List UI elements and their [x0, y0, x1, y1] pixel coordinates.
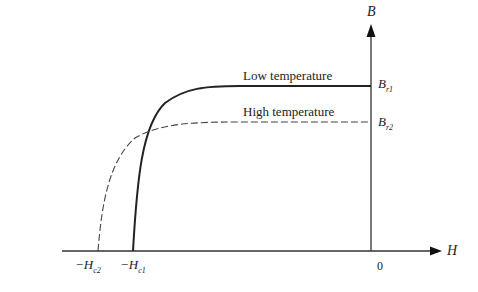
h-axis-arrow-icon — [430, 247, 442, 256]
h-axis-label: H — [447, 243, 457, 259]
origin-label: 0 — [377, 259, 383, 274]
br2-label: Br2 — [378, 114, 393, 132]
b-axis-arrow-icon — [367, 24, 376, 37]
neg-hc1-label: −Hc1 — [120, 257, 146, 275]
neg-hc2-label: −Hc2 — [75, 257, 101, 275]
b-axis-label: B — [367, 4, 376, 20]
br1-label: Br1 — [378, 76, 393, 94]
low-temperature-label: Low temperature — [243, 68, 332, 84]
high-temperature-label: High temperature — [243, 104, 334, 120]
diagram-canvas — [0, 0, 478, 292]
demagnetization-diagram: B H 0 Low temperature High temperature B… — [0, 0, 478, 292]
